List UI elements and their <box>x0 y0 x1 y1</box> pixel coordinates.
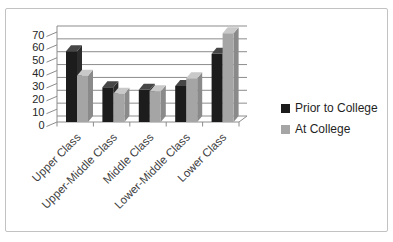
bar-prior-to-college-lower-class <box>212 54 223 122</box>
legend-item-at-college: At College <box>281 122 378 136</box>
bar-prior-to-college-lower-middle-class <box>175 86 186 122</box>
legend-swatch-at-college <box>281 125 290 134</box>
y-axis-label-50: 50 <box>32 54 44 66</box>
bar-prior-to-college-upper-middle-class <box>102 87 113 122</box>
legend-swatch-prior-to-college <box>281 104 290 113</box>
floor-right-edge <box>239 116 247 122</box>
y-tick-50 <box>47 58 58 63</box>
y-axis-label-20: 20 <box>32 93 44 105</box>
y-tick-0 <box>47 122 58 127</box>
y-axis-label-0: 0 <box>38 119 44 131</box>
chart-legend: Prior to College At College <box>281 101 378 143</box>
bar-at-college-upper-middle-class <box>113 94 124 122</box>
y-tick-70 <box>47 32 58 37</box>
bar-prior-to-college-upper-class <box>66 51 77 122</box>
y-tick-60 <box>47 45 58 50</box>
bar-at-college-lower-middle-class <box>186 78 197 122</box>
legend-item-prior-to-college: Prior to College <box>281 101 378 115</box>
legend-label-prior-to-college: Prior to College <box>295 101 378 115</box>
y-axis-label-30: 30 <box>32 80 44 92</box>
bar-side-at-college-middle-class <box>161 85 166 122</box>
y-tick-10 <box>47 109 58 114</box>
bar-at-college-lower-class <box>223 33 234 122</box>
bar-side-at-college-lower-class <box>234 27 239 122</box>
y-axis-label-70: 70 <box>32 29 44 41</box>
y-tick-20 <box>47 96 58 101</box>
y-tick-30 <box>47 83 58 88</box>
bar-prior-to-college-middle-class <box>139 90 150 122</box>
y-axis-label-10: 10 <box>32 106 44 118</box>
bar-side-at-college-lower-middle-class <box>197 72 202 122</box>
chart-container: 010203040506070Upper ClassUpper-Middle C… <box>0 0 393 242</box>
bar-at-college-upper-class <box>77 76 88 122</box>
bar-at-college-middle-class <box>150 91 161 122</box>
y-tick-40 <box>47 71 58 76</box>
bar-side-at-college-upper-class <box>88 70 93 122</box>
y-axis-label-60: 60 <box>32 41 44 53</box>
legend-label-at-college: At College <box>295 122 350 136</box>
bar-side-at-college-upper-middle-class <box>124 88 129 122</box>
y-axis-label-40: 40 <box>32 67 44 79</box>
